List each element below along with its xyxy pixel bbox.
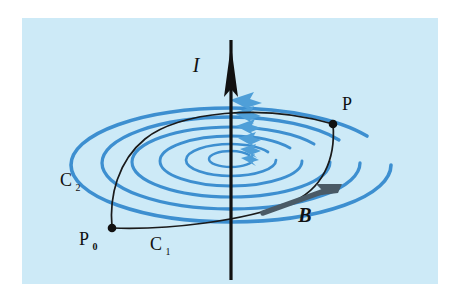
field-direction-arrowheads [230,92,262,166]
current-wire [224,40,238,280]
point-p-dot [329,120,338,129]
b-arrow-head-icon [313,184,342,196]
label-point-P: P [342,94,352,114]
label-curve-C2: C 2 [60,170,81,193]
label-point-P0-subscript: 0 [93,241,98,252]
label-curve-C2-base: C [60,170,72,190]
label-curve-C2-subscript: 2 [76,182,81,193]
physics-diagram: I B P P 0 C 1 C 2 [0,0,459,298]
label-current-I: I [192,54,201,76]
label-curve-C1-base: C [150,234,162,254]
label-point-P0-base: P [79,229,89,249]
label-point-P0: P 0 [79,229,98,252]
label-curve-C1: C 1 [150,234,171,257]
field-arrowhead-icon-3 [236,119,261,136]
label-curve-C1-subscript: 1 [166,246,171,257]
label-field-B: B [297,204,311,226]
figure-root: I B P P 0 C 1 C 2 [0,0,459,298]
point-p0-dot [108,224,117,233]
